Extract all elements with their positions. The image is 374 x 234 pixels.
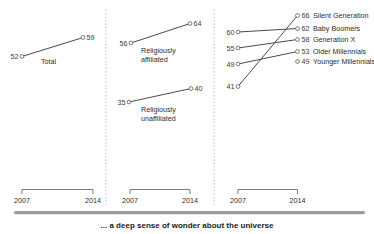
series-label-younger-millennials: Younger Millennials [313,57,374,66]
x-tick-religion-2014: 2014 [182,196,198,205]
panel-religion: 56 64 Religiously affiliated 35 40 Relig… [118,19,203,123]
x-axis-panel-generation: 2007 2014 [230,190,306,206]
marker-religiously-affiliated-2007 [129,41,133,45]
slope-line-baby-boomers [238,29,298,33]
value-label-total-2007: 52 [11,52,19,61]
value-label-religiously-affiliated-2007: 56 [120,39,128,48]
x-tick-total-2014: 2014 [85,196,101,205]
value-label-older-millennials-2007: 49 [227,60,235,69]
series-label-silent-generation: Silent Generation [313,11,369,20]
x-tick-total-2007: 2007 [14,196,30,205]
value-label-total-2014: 59 [87,33,95,42]
value-label-religiously-unaffiliated-2014: 40 [195,84,203,93]
slope-line-religiously-affiliated [131,24,190,44]
series-label-baby-boomers: Baby Boomers [313,24,361,33]
value-label-generation-x-2014: 58 [302,35,310,44]
x-axis-panel-religion: 2007 2014 [122,190,198,206]
x-tick-generation-2014: 2014 [290,196,306,205]
value-label-religiously-unaffiliated-2007: 35 [118,98,126,107]
figure-caption: ... a deep sense of wonder about the uni… [101,221,274,230]
value-label-religiously-affiliated-2014: 64 [194,19,202,28]
slope-line-silent-generation [238,16,298,87]
value-label-older-millennials-2014: 53 [302,47,310,56]
panel-generation: 60 55 49 41 66 62 58 53 49 Silent Genera… [227,11,374,91]
series-label-older-millennials: Older Millennials [313,47,367,56]
slope-line-generation-x [238,40,298,49]
marker-generation-x-2014 [296,38,300,42]
series-label-religiously-unaffiliated-line1: Religiously [141,105,176,114]
marker-older-millennials-2007 [236,62,240,66]
value-label-younger-millennials-2014: 49 [302,57,310,66]
x-axis-panel-total: 2007 2014 [14,190,101,206]
marker-silent-generation-2014 [296,14,300,18]
value-label-baby-boomers-2007: 60 [227,28,235,37]
marker-religiously-affiliated-2014 [188,22,192,26]
marker-silent-generation-2007 [236,85,240,89]
marker-baby-boomers-2007 [236,30,240,34]
slope-line-older-millennials [238,52,298,65]
series-label-total: Total [41,57,57,66]
axis-bracket-religion [130,190,190,195]
value-label-silent-generation-2007: 41 [227,82,235,91]
baseline-bar [14,211,365,214]
marker-religiously-unaffiliated-2014 [189,87,193,91]
value-label-silent-generation-2014: 66 [302,11,310,20]
marker-generation-x-2007 [236,46,240,50]
marker-baby-boomers-2014 [296,27,300,31]
value-label-baby-boomers-2014: 62 [302,24,310,33]
axis-bracket-total [22,190,93,195]
series-label-religiously-affiliated-line2: affiliated [141,55,168,64]
marker-younger-millennials-2014 [296,60,300,64]
axis-bracket-generation [238,190,298,195]
slope-chart-figure: 52 59 Total 56 64 Religiously affiliated… [0,0,374,234]
slope-line-religiously-unaffiliated [129,89,191,103]
value-label-generation-x-2007: 55 [227,44,235,53]
chart-canvas: 52 59 Total 56 64 Religiously affiliated… [0,0,374,234]
series-label-religiously-affiliated-line1: Religiously [141,46,176,55]
slope-line-total [22,38,83,57]
marker-religiously-unaffiliated-2007 [127,100,131,104]
marker-total-2014 [81,36,85,40]
marker-total-2007 [20,55,24,59]
x-tick-generation-2007: 2007 [230,196,246,205]
series-label-generation-x: Generation X [313,35,356,44]
panel-total: 52 59 Total [11,33,95,66]
series-label-religiously-unaffiliated-line2: unaffiliated [141,114,176,123]
x-tick-religion-2007: 2007 [122,196,138,205]
marker-older-millennials-2014 [296,50,300,54]
